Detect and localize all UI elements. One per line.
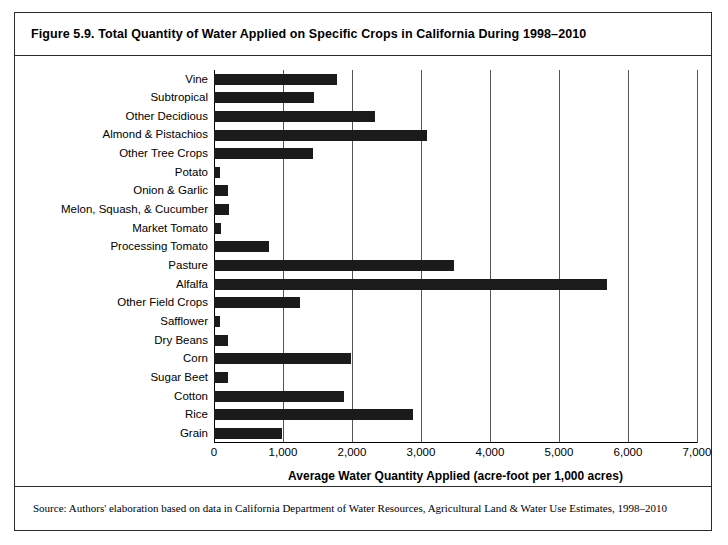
bar-row: Pasture: [214, 257, 697, 276]
figure-title: Figure 5.9. Total Quantity of Water Appl…: [31, 27, 695, 41]
category-label: Potato: [175, 164, 208, 181]
bar: [214, 372, 228, 383]
bar: [214, 279, 607, 290]
bar: [214, 316, 220, 327]
category-label: Safflower: [160, 313, 208, 330]
bar-row: Melon, Squash, & Cucumber: [214, 201, 697, 220]
bar-row: Rice: [214, 406, 697, 425]
bar: [214, 223, 221, 234]
category-label: Other Tree Crops: [119, 145, 208, 162]
x-tick-label: 1,000: [269, 446, 298, 458]
bar-row: Cotton: [214, 387, 697, 406]
bar: [214, 185, 228, 196]
bar: [214, 167, 220, 178]
bar-row: Vine: [214, 70, 697, 89]
category-label: Other Field Crops: [117, 294, 208, 311]
figure-container: Figure 5.9. Total Quantity of Water Appl…: [14, 12, 712, 531]
bar-row: Dry Beans: [214, 331, 697, 350]
category-label: Rice: [185, 406, 208, 423]
bar: [214, 335, 228, 346]
x-tick-label: 7,000: [683, 446, 712, 458]
bar-row: Market Tomato: [214, 219, 697, 238]
bar: [214, 74, 337, 85]
category-label: Pasture: [168, 257, 208, 274]
bar: [214, 130, 427, 141]
x-tick-label: 4,000: [476, 446, 505, 458]
bar: [214, 353, 351, 364]
bar: [214, 428, 282, 439]
x-tick-label: 6,000: [614, 446, 643, 458]
bar-row: Potato: [214, 163, 697, 182]
bar-row: Grain: [214, 424, 697, 443]
x-axis-title: Average Water Quantity Applied (acre-foo…: [214, 469, 697, 483]
bar-row: Onion & Garlic: [214, 182, 697, 201]
category-label: Onion & Garlic: [133, 182, 208, 199]
bar-row: Alfalfa: [214, 275, 697, 294]
category-label: Subtropical: [150, 89, 208, 106]
bar: [214, 297, 300, 308]
bar-row: Subtropical: [214, 89, 697, 108]
bar: [214, 260, 454, 271]
category-label: Melon, Squash, & Cucumber: [61, 201, 208, 218]
bar-row: Processing Tomato: [214, 238, 697, 257]
category-label: Market Tomato: [132, 220, 208, 237]
bar-row: Corn: [214, 350, 697, 369]
category-label: Corn: [183, 350, 208, 367]
bar-row: Other Tree Crops: [214, 145, 697, 164]
bar: [214, 111, 375, 122]
chart-area: VineSubtropicalOther DecidiousAlmond & P…: [15, 56, 711, 488]
bar: [214, 391, 344, 402]
x-tick-label: 0: [211, 446, 217, 458]
x-tick-label: 3,000: [407, 446, 436, 458]
bar-row: Other Field Crops: [214, 294, 697, 313]
category-label: Processing Tomato: [110, 238, 208, 255]
category-label: Sugar Beet: [150, 369, 208, 386]
bar: [214, 92, 314, 103]
source-divider: [15, 486, 711, 487]
bar: [214, 148, 313, 159]
bar: [214, 241, 269, 252]
bar-row: Safflower: [214, 312, 697, 331]
category-label: Cotton: [174, 388, 208, 405]
bar-chart-plot: VineSubtropicalOther DecidiousAlmond & P…: [214, 70, 697, 443]
category-label: Other Decidious: [126, 108, 208, 125]
category-label: Dry Beans: [154, 332, 208, 349]
category-label: Vine: [185, 71, 208, 88]
bar: [214, 409, 413, 420]
bar-row: Other Decidious: [214, 107, 697, 126]
bar: [214, 204, 229, 215]
figure-source: Source: Authors' elaboration based on da…: [33, 502, 695, 514]
gridline-7000: [697, 70, 698, 443]
category-label: Grain: [180, 425, 208, 442]
bar-row: Sugar Beet: [214, 368, 697, 387]
category-label: Almond & Pistachios: [103, 126, 208, 143]
bar-row: Almond & Pistachios: [214, 126, 697, 145]
x-tick-label: 5,000: [545, 446, 574, 458]
category-label: Alfalfa: [176, 276, 208, 293]
x-tick-label: 2,000: [338, 446, 367, 458]
